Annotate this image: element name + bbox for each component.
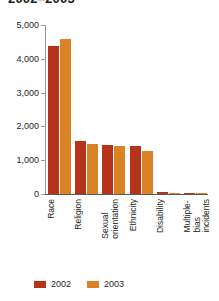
legend-item: 2002 [34, 279, 71, 289]
bar-group [48, 25, 71, 194]
bar-group [102, 25, 125, 194]
x-axis-category-label: Race [47, 199, 70, 219]
y-axis-tick-label: 2,000 [16, 121, 39, 131]
bar-2003 [60, 39, 71, 194]
legend-label: 2003 [104, 279, 124, 289]
x-axis-category-label: Sexual orientation [101, 199, 124, 239]
x-axis-category-label: Multiple-bias incidents [183, 199, 206, 233]
x-axis-category-label: Disability [156, 199, 179, 233]
legend-label: 2002 [51, 279, 71, 289]
y-axis-tick-label: 3,000 [16, 88, 39, 98]
bar-group [130, 25, 153, 194]
bar-2003 [142, 151, 153, 194]
y-axis-tick [41, 25, 45, 26]
y-axis-tick [41, 93, 45, 94]
x-axis-line [45, 194, 208, 195]
chart-legend: 20022003 [34, 279, 124, 289]
bar-group [184, 25, 207, 194]
y-axis-tick [41, 126, 45, 127]
bar-2003 [114, 146, 125, 194]
bar-2002 [102, 145, 113, 194]
bar-2002 [75, 141, 86, 194]
y-axis-tick [41, 160, 45, 161]
bar-group [157, 25, 180, 194]
bar-2002 [157, 192, 168, 194]
x-axis-category-label: Ethnicity [129, 199, 152, 231]
y-axis-tick-label: 4,000 [16, 54, 39, 64]
y-axis-tick-label: 0 [34, 189, 39, 199]
legend-item: 2003 [87, 279, 124, 289]
bar-2002 [48, 46, 59, 194]
x-axis-category-label: Religion [74, 199, 97, 230]
bar-2003 [196, 193, 207, 194]
bar-2002 [130, 146, 141, 194]
chart-title: 2002–2003 [8, 0, 75, 6]
bar-2002 [184, 193, 195, 194]
y-axis-line [45, 25, 46, 194]
legend-swatch-icon [87, 281, 99, 288]
legend-swatch-icon [34, 281, 46, 288]
bar-2003 [169, 193, 180, 194]
y-axis-tick [41, 194, 45, 195]
bar-group [75, 25, 98, 194]
y-axis-tick-label: 1,000 [16, 155, 39, 165]
y-axis-tick [41, 59, 45, 60]
bar-chart-figure: 2002–2003 01,0002,0003,0004,0005,000 Rac… [0, 0, 219, 301]
plot-area: 01,0002,0003,0004,0005,000 RaceReligionS… [45, 25, 208, 194]
bar-2003 [87, 144, 98, 194]
y-axis-tick-label: 5,000 [16, 20, 39, 30]
